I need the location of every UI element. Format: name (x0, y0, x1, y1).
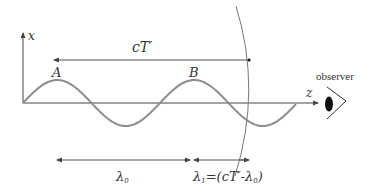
emitted-wavelength-label: λ0 (115, 169, 129, 185)
z-axis-label: z (305, 86, 313, 100)
received-wavelength-label: λ1=(cT′-λ0) (192, 169, 263, 185)
x-axis-label: x (28, 29, 35, 43)
doppler-diagram: x z A B cT′ observer λ0 λ1=(cT′-λ0) (0, 0, 372, 189)
period-span-endpoint (247, 58, 250, 61)
point-label-b: B (188, 65, 199, 80)
wavefront-arc (235, 6, 249, 176)
point-label-a: A (51, 65, 61, 80)
eye-icon (325, 87, 346, 119)
observer-label: observer (316, 70, 354, 82)
period-span-label: cT′ (132, 39, 153, 55)
